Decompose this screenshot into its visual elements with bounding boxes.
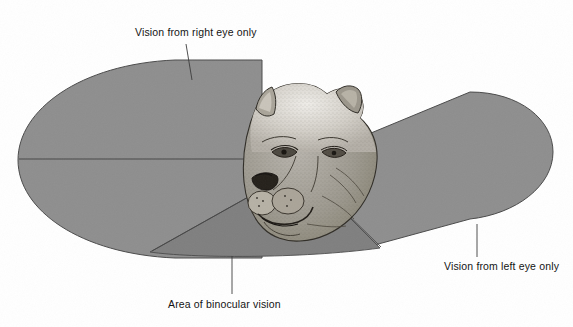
left-eye-label: Vision from left eye only [444,260,559,272]
right-eye-label: Vision from right eye only [135,26,257,38]
paper-grain [0,0,573,327]
binocular-label: Area of binocular vision [168,298,281,310]
vision-field-diagram: Vision from right eye only Vision from l… [0,0,573,327]
diagram-canvas [0,0,573,327]
